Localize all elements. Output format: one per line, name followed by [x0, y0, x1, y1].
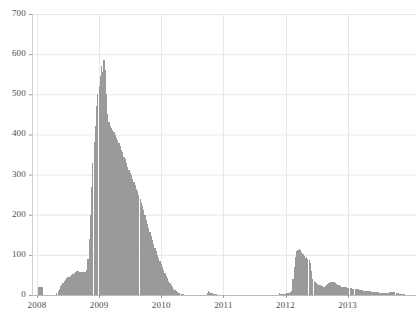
bar: [58, 291, 59, 295]
bar: [210, 293, 211, 295]
bar: [295, 257, 296, 295]
bar: [154, 248, 155, 295]
bar: [125, 159, 126, 295]
bar: [404, 294, 405, 295]
bar: [352, 289, 353, 295]
bar: [386, 293, 387, 295]
bar: [294, 267, 295, 295]
bar: [336, 284, 337, 295]
bar: [316, 283, 317, 295]
bar: [70, 276, 71, 295]
bar: [62, 283, 63, 295]
bar: [315, 282, 316, 295]
bar: [115, 135, 116, 295]
bar: [289, 293, 290, 295]
bar: [379, 293, 380, 295]
bar: [126, 163, 127, 295]
bar: [173, 289, 174, 295]
bar: [161, 264, 162, 295]
bar: [100, 76, 101, 295]
bar: [215, 294, 216, 295]
bar: [341, 287, 342, 295]
bar: [102, 72, 103, 295]
bar: [143, 210, 144, 295]
bar: [306, 257, 307, 295]
bar: [335, 283, 336, 295]
bar: [80, 272, 81, 295]
bar: [79, 272, 80, 295]
y-axis-tick-label: 500: [0, 89, 26, 98]
x-axis-tick-label: 2009: [79, 301, 119, 310]
x-axis-tick-label: 2013: [328, 301, 368, 310]
bar: [168, 281, 169, 295]
bar: [320, 285, 321, 295]
bar: [368, 291, 369, 295]
bar: [87, 259, 88, 295]
y-axis-tick-label: 200: [0, 210, 26, 219]
bar: [167, 278, 168, 295]
bar: [383, 293, 384, 295]
bar: [287, 293, 288, 295]
bar: [123, 157, 124, 295]
bar: [96, 106, 97, 295]
bar: [142, 206, 143, 295]
bar: [342, 287, 343, 295]
bar: [318, 285, 319, 295]
bar: [389, 292, 390, 295]
data-bars: [38, 60, 413, 295]
bar: [281, 294, 282, 295]
bar: [208, 291, 209, 295]
bar: [280, 294, 281, 295]
bar: [171, 285, 172, 295]
bar: [366, 291, 367, 295]
bar: [340, 286, 341, 295]
bar: [117, 140, 118, 295]
bar: [131, 175, 132, 295]
bar: [77, 271, 78, 295]
bar: [181, 294, 182, 295]
bar: [172, 287, 173, 295]
bar: [91, 187, 92, 295]
bar: [144, 215, 145, 295]
bar: [292, 279, 293, 295]
bar: [164, 273, 165, 295]
bar: [364, 291, 365, 295]
bar: [99, 86, 100, 295]
bar: [132, 179, 133, 295]
y-axis-tick-label: 700: [0, 9, 26, 18]
bar: [333, 282, 334, 295]
bar: [151, 236, 152, 295]
bar: [387, 293, 388, 295]
bar: [108, 122, 109, 295]
bar: [302, 254, 303, 295]
bar: [337, 285, 338, 295]
bar: [351, 288, 352, 295]
bar: [382, 293, 383, 295]
bar: [309, 260, 310, 295]
bar: [152, 240, 153, 295]
bar: [158, 258, 159, 295]
bar: [105, 70, 106, 295]
bar: [371, 292, 372, 295]
bar: [71, 275, 72, 295]
bar: [97, 94, 98, 295]
bar: [353, 289, 354, 295]
bar: [94, 142, 95, 295]
bar: [90, 215, 91, 295]
bar: [301, 252, 302, 295]
bar: [95, 126, 96, 295]
bar: [286, 293, 287, 295]
bar: [159, 261, 160, 295]
bar: [347, 288, 348, 295]
bar: [138, 195, 139, 295]
bar: [338, 285, 339, 295]
bar: [169, 283, 170, 295]
bar: [397, 293, 398, 295]
bar: [284, 294, 285, 295]
bar: [396, 293, 397, 295]
bar: [182, 294, 183, 295]
bar: [121, 150, 122, 295]
bar: [378, 292, 379, 295]
bar: [326, 285, 327, 295]
bar: [103, 60, 104, 295]
